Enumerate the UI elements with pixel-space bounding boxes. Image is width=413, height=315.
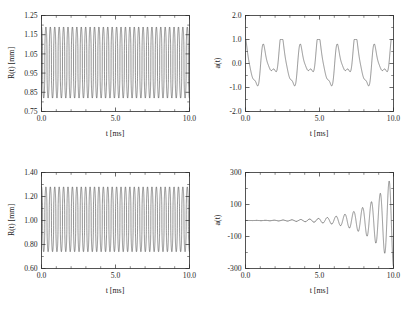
x-tick-label: 5.0 [315, 114, 325, 123]
y-tick-label: 1.0 [232, 35, 242, 44]
x-tick-label: 5.0 [315, 271, 325, 280]
y-tick-label: -1.0 [229, 83, 241, 92]
y-tick-label: 1.40 [24, 168, 37, 177]
x-tick-label: 0.0 [37, 114, 47, 123]
y-axis-label: R(t) [mm] [7, 47, 16, 80]
panel-top-right: -2.0-1.00.01.02.00.05.010.0 t [ms] a(t) [207, 0, 413, 157]
x-axis-label: t [ms] [106, 286, 125, 295]
y-tick-label: -300 [228, 264, 242, 273]
y-tick-label: 0.95 [24, 69, 37, 78]
tick-labels: -300-1001003000.05.010.0 [228, 168, 401, 280]
y-tick-label: -100 [228, 232, 242, 241]
y-tick-label: 1.15 [24, 30, 37, 39]
y-axis-label: a(t) [213, 57, 222, 68]
y-axis-label: R(t) [mm] [7, 204, 16, 237]
y-tick-label: 0.85 [24, 88, 37, 97]
x-axis-label: t [ms] [106, 129, 125, 138]
series-curve-a [246, 181, 394, 266]
x-tick-label: 0.0 [241, 114, 251, 123]
series-curve-a [246, 40, 394, 86]
x-axis-label: t [ms] [310, 129, 329, 138]
data-curve-group [246, 181, 394, 266]
series-curve-R [42, 187, 190, 252]
x-tick-label: 10.0 [183, 271, 196, 280]
y-tick-label: 0.0 [232, 59, 242, 68]
x-tick-label: 0.0 [241, 271, 251, 280]
panel-bottom-right: -300-1001003000.05.010.0 t [ms] a(t) [207, 157, 413, 315]
x-tick-label: 10.0 [387, 271, 400, 280]
tick-labels: -2.0-1.00.01.02.00.05.010.0 [229, 11, 400, 123]
series-curve-R [42, 27, 190, 98]
y-tick-label: 300 [230, 168, 242, 177]
x-tick-label: 10.0 [183, 114, 196, 123]
y-tick-label: 100 [230, 200, 242, 209]
x-tick-label: 10.0 [387, 114, 400, 123]
plot-bottom-left: 0.600.801.001.201.400.05.010.0 t [ms] R(… [0, 157, 207, 315]
plot-top-right: -2.0-1.00.01.02.00.05.010.0 t [ms] a(t) [207, 0, 413, 157]
x-tick-label: 5.0 [111, 114, 121, 123]
figure-canvas: 0.750.850.951.051.151.250.05.010.0 t [ms… [0, 0, 413, 315]
data-curve-group [42, 187, 190, 252]
y-tick-label: 0.80 [24, 240, 37, 249]
data-curve-group [246, 40, 394, 86]
y-tick-label: 0.60 [24, 264, 37, 273]
y-tick-label: 2.0 [232, 11, 242, 20]
y-axis-label: a(t) [213, 214, 222, 225]
plot-top-left: 0.750.850.951.051.151.250.05.010.0 t [ms… [0, 0, 207, 157]
panel-bottom-left: 0.600.801.001.201.400.05.010.0 t [ms] R(… [0, 157, 207, 315]
data-curve-group [42, 27, 190, 98]
y-tick-label: 1.05 [24, 50, 37, 59]
y-tick-label: 0.75 [24, 107, 37, 116]
x-tick-label: 0.0 [37, 271, 47, 280]
x-tick-label: 5.0 [111, 271, 121, 280]
y-tick-label: 1.25 [24, 11, 37, 20]
panel-top-left: 0.750.850.951.051.151.250.05.010.0 t [ms… [0, 0, 207, 157]
y-tick-label: 1.00 [24, 216, 37, 225]
plot-bottom-right: -300-1001003000.05.010.0 t [ms] a(t) [207, 157, 413, 315]
y-tick-label: 1.20 [24, 192, 37, 201]
x-axis-label: t [ms] [310, 286, 329, 295]
